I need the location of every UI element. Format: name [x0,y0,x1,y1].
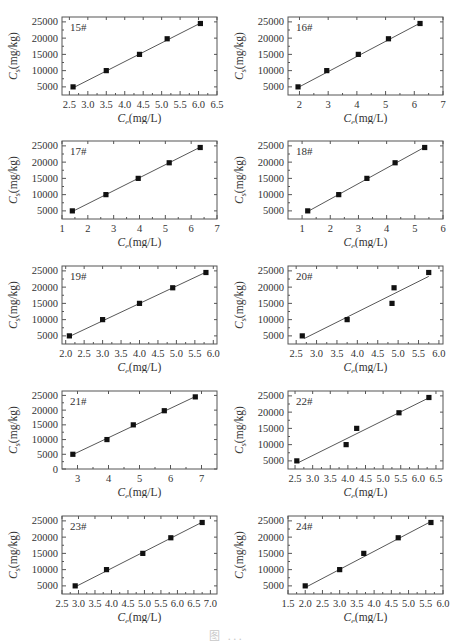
x-tick-label: 5.5 [154,598,167,609]
x-tick-label: 6.0 [412,473,425,484]
data-point [391,285,396,290]
chart-panel-17: 123456750001000015000200002500017#Ce(mg/… [0,124,226,248]
data-point [417,21,422,26]
sample-label: 20# [296,270,313,282]
x-tick-label: 5.0 [402,598,415,609]
data-point [140,551,145,556]
x-tick-label: 5.5 [174,99,187,110]
x-tick-label: 5.0 [138,598,151,609]
x-tick-label: 3 [111,223,116,234]
data-point [422,145,427,150]
x-axis-label: Ce(mg/L) [118,486,162,498]
data-point [131,422,136,427]
y-tick-label: 15000 [32,173,58,184]
x-tick-label: 3.0 [306,473,319,484]
data-point [361,551,366,556]
sample-label: 22# [296,395,313,407]
x-tick-label: 6.0 [436,598,449,609]
y-tick-label: 15000 [32,419,58,430]
x-tick-label: 5 [383,99,388,110]
chart-panel-24: 1.52.02.53.03.54.04.55.05.56.05000100001… [226,499,452,623]
x-axis-label: Ce(mg/L) [118,611,162,623]
chart-panel-16: 23456750001000015000200002500016#Ce(mg/L… [226,0,452,124]
x-tick-label: 1 [299,223,304,234]
sample-label: 16# [296,21,313,33]
data-point [324,68,329,73]
y-tick-label: 25000 [32,265,58,276]
data-point [168,535,173,540]
x-tick-label: 5.0 [392,348,405,359]
x-axis-label: Ce(mg/L) [344,236,388,248]
x-tick-label: 7 [214,223,219,234]
y-tick-label: 20000 [32,157,58,168]
x-axis-label: Ce(mg/L) [344,112,388,124]
x-tick-label: 4 [137,223,143,234]
x-tick-label: 3.5 [324,473,337,484]
x-tick-label: 6.5 [187,598,200,609]
x-tick-label: 3.0 [81,99,94,110]
data-point [162,408,167,413]
x-tick-label: 2.5 [316,598,329,609]
sample-label: 21# [70,395,87,407]
x-tick-label: 6 [412,99,417,110]
y-tick-label: 5000 [263,205,284,216]
data-point [136,176,141,181]
x-tick-label: 2.0 [299,598,312,609]
data-point [137,301,142,306]
data-point [345,317,350,322]
x-tick-label: 5.0 [377,473,390,484]
x-tick-label: 6 [189,223,194,234]
y-tick-label: 20000 [258,532,284,543]
data-point [73,583,78,588]
x-tick-label: 3.0 [72,598,85,609]
x-tick-label: 2 [297,99,302,110]
y-tick-label: 10000 [258,314,284,325]
chart-panel-22: 2.53.03.54.04.55.05.56.06.55000100001500… [226,374,452,498]
x-tick-label: 2.5 [78,348,91,359]
data-point [203,270,208,275]
x-tick-label: 2.0 [59,348,72,359]
x-tick-label: 4 [106,473,112,484]
data-point [396,535,401,540]
data-point [364,176,369,181]
y-tick-label: 20000 [258,157,284,168]
data-point [170,285,175,290]
y-tick-label: 10000 [32,189,58,200]
y-tick-label: 15000 [32,298,58,309]
data-point [337,567,342,572]
y-tick-label: 10000 [32,564,58,575]
x-tick-label: 5.5 [412,348,425,359]
chart-panel-19: 2.02.53.03.54.04.55.05.56.05000100001500… [0,249,226,373]
data-point [104,68,109,73]
y-tick-label: 5000 [263,81,284,92]
y-tick-label: 5000 [37,330,58,341]
data-point [70,452,75,457]
y-axis-label: Cs(mg/kg) [233,406,248,454]
y-tick-label: 20000 [32,405,58,416]
fit-line [299,398,429,463]
y-tick-label: 25000 [258,515,284,526]
x-tick-label: 6.0 [171,598,184,609]
sample-label: 18# [296,145,313,157]
x-tick-label: 3 [356,223,361,234]
y-tick-label: 5000 [37,205,58,216]
x-tick-label: 3 [326,99,331,110]
y-tick-label: 20000 [258,33,284,44]
data-point [354,426,359,431]
x-tick-label: 2.5 [55,598,68,609]
y-tick-label: 5000 [263,455,284,466]
x-tick-label: 2.5 [290,348,303,359]
data-point [336,192,341,197]
x-tick-label: 7 [199,473,204,484]
x-tick-label: 4.5 [151,348,164,359]
data-point [386,36,391,41]
data-point [300,333,305,338]
fit-line [305,522,431,588]
y-tick-label: 10000 [32,314,58,325]
data-point [392,160,397,165]
x-tick-label: 4.5 [121,598,134,609]
y-tick-label: 25000 [32,390,58,401]
y-axis-label: Cs(mg/kg) [233,32,248,80]
y-tick-label: 5000 [37,449,58,460]
x-tick-label: 5.5 [394,473,407,484]
